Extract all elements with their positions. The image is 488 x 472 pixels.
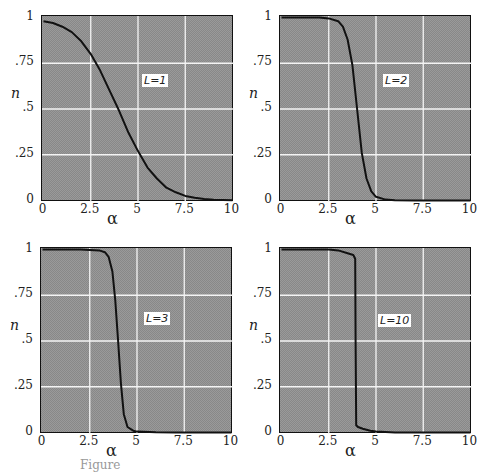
x-axis-label: α <box>107 209 118 228</box>
curve-label: L=10 <box>378 314 411 327</box>
x-tick-label: 2.5 <box>313 434 343 448</box>
y-tick-label: .25 <box>3 378 33 392</box>
y-tick-label: .5 <box>3 332 33 346</box>
x-tick-label: 2.5 <box>75 202 105 216</box>
x-tick-label: 5 <box>122 202 152 216</box>
y-tick-label: .75 <box>242 54 272 68</box>
y-tick-label: .25 <box>4 146 34 160</box>
x-tick-label: 0 <box>266 434 296 448</box>
x-tick-label: 0 <box>28 202 58 216</box>
y-tick-label: .75 <box>4 54 34 68</box>
y-axis-label: n <box>10 317 19 333</box>
curve-label: L=1 <box>142 74 168 87</box>
plot-area <box>279 247 471 433</box>
x-tick-label: 7.5 <box>407 202 437 216</box>
y-tick-label: .5 <box>4 100 34 114</box>
x-tick-label: 0 <box>266 202 296 216</box>
x-axis-label: α <box>345 209 356 228</box>
x-tick-label: 0 <box>27 434 57 448</box>
y-axis-label: n <box>249 85 258 101</box>
x-tick-label: 10 <box>455 202 485 216</box>
y-tick-label: .5 <box>242 100 272 114</box>
x-tick-label: 5 <box>360 434 390 448</box>
curve-label: L=2 <box>383 74 409 87</box>
y-tick-label: .25 <box>242 378 272 392</box>
figure-caption: Figure <box>80 458 120 472</box>
y-tick-label: 1 <box>4 9 34 23</box>
plot-area <box>279 15 471 201</box>
x-axis-label: α <box>345 441 356 460</box>
x-tick-label: 7.5 <box>168 434 198 448</box>
y-tick-label: .75 <box>3 286 33 300</box>
y-tick-label: .25 <box>242 146 272 160</box>
y-tick-label: .5 <box>242 332 272 346</box>
curve-label: L=3 <box>144 312 170 325</box>
x-tick-label: 7.5 <box>169 202 199 216</box>
y-axis-label: n <box>11 85 20 101</box>
x-tick-label: 5 <box>360 202 390 216</box>
x-tick-label: 10 <box>216 434 246 448</box>
plot-area <box>41 15 233 201</box>
y-tick-label: 1 <box>242 241 272 255</box>
x-tick-label: 2.5 <box>74 434 104 448</box>
plot-svg <box>280 248 472 434</box>
plot-area <box>40 247 232 433</box>
x-tick-label: 10 <box>455 434 485 448</box>
y-tick-label: 1 <box>3 241 33 255</box>
y-tick-label: .75 <box>242 286 272 300</box>
plot-svg <box>41 248 233 434</box>
plot-svg <box>280 16 472 202</box>
y-tick-label: 1 <box>242 9 272 23</box>
y-axis-label: n <box>249 317 258 333</box>
x-tick-label: 2.5 <box>313 202 343 216</box>
x-tick-label: 7.5 <box>407 434 437 448</box>
plot-svg <box>42 16 234 202</box>
x-tick-label: 5 <box>121 434 151 448</box>
